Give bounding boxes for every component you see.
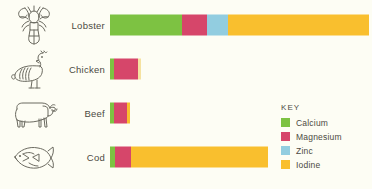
row-label-cod: Cod [0, 152, 105, 163]
row-label-lobster: Lobster [0, 20, 105, 31]
legend: KEY Calcium Magnesium Zinc Iodine [281, 103, 369, 173]
chart-row-lobster: Lobster [0, 3, 372, 47]
legend-item-zinc: Zinc [281, 145, 369, 156]
chart-row-chicken: Chicken [0, 47, 372, 91]
bar-segment-calcium [110, 15, 182, 36]
bar-segment-iodine [228, 15, 369, 36]
legend-swatch-calcium [281, 118, 290, 127]
bar-segment-iodine [138, 59, 141, 80]
bar-lobster [110, 15, 369, 36]
bar-segment-magnesium [115, 147, 131, 168]
legend-title: KEY [281, 103, 369, 112]
legend-swatch-magnesium [281, 132, 290, 141]
legend-label-zinc: Zinc [296, 146, 313, 156]
legend-item-calcium: Calcium [281, 117, 369, 128]
bar-segment-zinc [207, 15, 228, 36]
legend-item-iodine: Iodine [281, 159, 369, 170]
legend-swatch-iodine [281, 160, 290, 169]
bar-segment-magnesium [114, 59, 138, 80]
legend-item-magnesium: Magnesium [281, 131, 369, 142]
bar-segment-iodine [131, 147, 268, 168]
legend-label-calcium: Calcium [296, 118, 328, 128]
bar-segment-iodine [127, 103, 130, 124]
bar-chicken [110, 59, 141, 80]
stacked-bar-chart: Lobster [0, 0, 372, 189]
legend-swatch-zinc [281, 146, 290, 155]
row-label-beef: Beef [0, 108, 105, 119]
bar-cod [110, 147, 268, 168]
bar-segment-magnesium [182, 15, 207, 36]
legend-label-magnesium: Magnesium [296, 132, 342, 142]
row-label-chicken: Chicken [0, 64, 105, 75]
bar-segment-magnesium [114, 103, 127, 124]
legend-label-iodine: Iodine [296, 160, 320, 170]
bar-beef [110, 103, 130, 124]
